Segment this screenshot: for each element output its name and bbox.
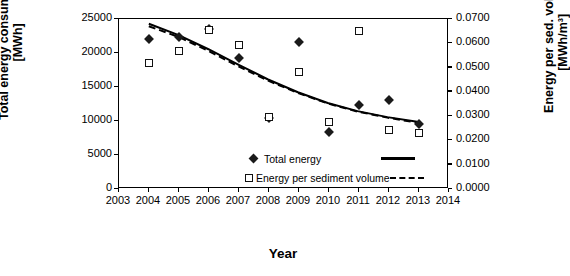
x-tickmark-2006 [208,188,210,192]
chart-legend: Total energy Energy per sediment volume [245,149,417,187]
data-point-total-energy [174,32,184,42]
data-point-total-energy [144,34,154,44]
x-tickmark-2004 [148,188,150,192]
data-point-total-energy [324,127,334,137]
y-tick-right-0.0200: 0.0200 [456,132,504,144]
y-tick-right-0.0600: 0.0600 [456,35,504,47]
total-energy-trend-line [149,24,417,122]
data-point-energy-per-volume [205,26,213,34]
legend-label-total-energy: Total energy [261,153,321,165]
y-tickmark-right-0.0700 [448,18,452,20]
filled-diamond-icon [245,155,261,162]
data-point-energy-per-volume [325,118,333,126]
data-point-total-energy [384,95,394,105]
x-tickmark-2012 [388,188,390,192]
y-tickmark-left-25000 [114,18,118,20]
energy-per-volume-trend-line [149,26,417,122]
x-axis-label: Year [118,246,448,262]
legend-line-solid-icon [321,157,417,160]
data-point-energy-per-volume [415,129,423,137]
y-tickmark-right-0.0100 [448,163,452,165]
x-tickmark-2005 [178,188,180,192]
data-point-energy-per-volume [175,47,183,55]
y-tick-left-25000: 25000 [66,11,112,23]
y-axis-right-label-line1: Energy per sed. volume [542,0,556,113]
data-point-energy-per-volume [235,41,243,49]
y-tick-left-0: 0 [66,181,112,193]
y-axis-right-label: Energy per sed. volume [MWh/m³] [542,0,570,127]
y-tick-right-0.0100: 0.0100 [456,157,504,169]
data-point-energy-per-volume [265,113,273,121]
y-tickmark-left-5000 [114,154,118,156]
data-point-energy-per-volume [295,68,303,76]
x-tickmark-2008 [268,188,270,192]
x-tickmark-2010 [328,188,330,192]
legend-item-total-energy: Total energy [245,149,417,168]
y-tick-right-0.0500: 0.0500 [456,60,504,72]
x-tickmark-2007 [238,188,240,192]
plot-area: Total energy Energy per sediment volume [118,18,448,188]
y-tickmark-right-0.0600 [448,42,452,44]
y-tickmark-left-10000 [114,120,118,122]
x-tickmark-2011 [358,188,360,192]
y-tickmark-left-20000 [114,52,118,54]
y-tick-left-5000: 5000 [66,147,112,159]
y-axis-left-label: Total energy consumption [MWh] [0,0,25,127]
y-tickmark-right-0.0400 [448,90,452,92]
x-tick-2014: 2014 [430,194,466,206]
y-tickmark-right-0.0500 [448,66,452,68]
data-point-total-energy [294,37,304,47]
y-axis-right-label-line2: [MWh/m³] [556,14,570,71]
data-point-energy-per-volume [145,59,153,67]
data-point-energy-per-volume [355,27,363,35]
open-square-icon [245,174,253,182]
y-tick-right-0.0300: 0.0300 [456,108,504,120]
data-point-total-energy [234,53,244,63]
x-tickmark-2014 [448,188,450,192]
y-tick-right-0.0000: 0.0000 [456,181,504,193]
data-point-energy-per-volume [385,126,393,134]
y-axis-left-label-line1: Total energy consumption [0,0,11,120]
data-point-total-energy [354,100,364,110]
y-tick-left-10000: 10000 [66,113,112,125]
x-tickmark-2009 [298,188,300,192]
y-tick-right-0.0400: 0.0400 [456,84,504,96]
legend-item-energy-per-sediment-volume: Energy per sediment volume [245,168,417,187]
y-tickmark-left-15000 [114,86,118,88]
y-axis-left-label-line2: [MWh] [11,23,25,61]
y-tick-left-20000: 20000 [66,45,112,57]
y-tickmark-right-0.0200 [448,139,452,141]
y-tick-left-15000: 15000 [66,79,112,91]
legend-line-dashed-icon [390,177,426,179]
x-tickmark-2003 [118,188,120,192]
y-tickmark-right-0.0300 [448,115,452,117]
y-tick-right-0.0700: 0.0700 [456,11,504,23]
legend-label-energy-per-sediment-volume: Energy per sediment volume [253,172,390,184]
x-tickmark-2013 [418,188,420,192]
